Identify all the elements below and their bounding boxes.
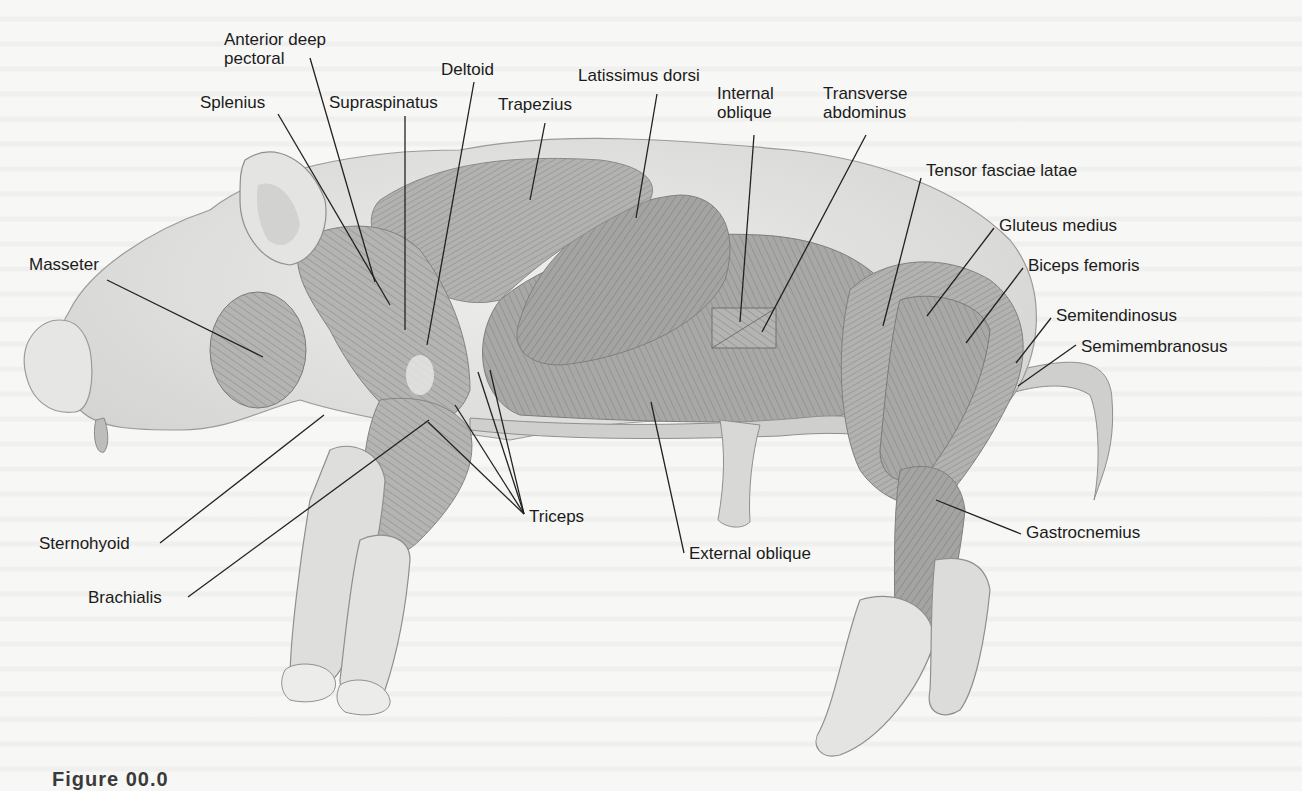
leader-line-semitendinosus xyxy=(1016,318,1051,363)
label-text: Gluteus medius xyxy=(999,216,1117,235)
label-text: pectoral xyxy=(224,49,326,68)
label-text: Gastrocnemius xyxy=(1026,523,1140,542)
label-deltoid: Deltoid xyxy=(441,60,494,79)
leader-line-deltoid xyxy=(427,82,474,345)
leader-line-triceps-4 xyxy=(490,370,524,514)
label-text: Deltoid xyxy=(441,60,494,79)
label-gluteus-medius: Gluteus medius xyxy=(999,216,1117,235)
leader-line-tensor-fasciae-latae xyxy=(883,178,921,326)
label-text: Triceps xyxy=(529,507,584,526)
label-brachialis: Brachialis xyxy=(88,588,162,607)
label-text: Internal xyxy=(717,84,774,103)
label-text: Latissimus dorsi xyxy=(578,66,700,85)
leader-line-masseter xyxy=(107,280,263,357)
label-splenius: Splenius xyxy=(200,93,265,112)
label-text: Anterior deep xyxy=(224,30,326,49)
leader-line-sternohyoid xyxy=(160,415,324,543)
label-trapezius: Trapezius xyxy=(498,95,572,114)
leader-line-gastrocnemius xyxy=(936,500,1021,534)
label-text: abdominus xyxy=(823,103,907,122)
label-text: Brachialis xyxy=(88,588,162,607)
label-sternohyoid: Sternohyoid xyxy=(39,534,130,553)
leader-line-brachialis xyxy=(188,420,429,597)
label-text: Splenius xyxy=(200,93,265,112)
leader-line-biceps-femoris xyxy=(966,268,1023,343)
label-biceps-femoris: Biceps femoris xyxy=(1028,256,1139,275)
label-text: Semitendinosus xyxy=(1056,306,1177,325)
leader-line-external-oblique xyxy=(651,402,684,553)
label-semimembranosus: Semimembranosus xyxy=(1081,337,1227,356)
label-text: Masseter xyxy=(29,255,99,274)
label-text: Sternohyoid xyxy=(39,534,130,553)
label-latissimus-dorsi: Latissimus dorsi xyxy=(578,66,700,85)
label-text: Tensor fasciae latae xyxy=(926,161,1077,180)
leader-line-latissimus-dorsi xyxy=(636,94,657,218)
leader-line-transverse-abdominus xyxy=(762,135,866,332)
label-text: Supraspinatus xyxy=(329,93,438,112)
leader-line-semimembranosus xyxy=(1018,345,1076,386)
label-text: Biceps femoris xyxy=(1028,256,1139,275)
label-masseter: Masseter xyxy=(29,255,99,274)
leader-line-triceps-2 xyxy=(455,405,524,514)
leader-line-anterior-deep-pectoral xyxy=(310,58,375,282)
label-semitendinosus: Semitendinosus xyxy=(1056,306,1177,325)
label-text: oblique xyxy=(717,103,774,122)
label-text: Trapezius xyxy=(498,95,572,114)
label-external-oblique: External oblique xyxy=(689,544,811,563)
label-tensor-fasciae-latae: Tensor fasciae latae xyxy=(926,161,1077,180)
label-supraspinatus: Supraspinatus xyxy=(329,93,438,112)
label-transverse-abdominus: Transverseabdominus xyxy=(823,84,907,122)
leader-line-trapezius xyxy=(530,123,545,200)
label-text: External oblique xyxy=(689,544,811,563)
figure-caption: Figure 00.0 xyxy=(52,768,169,791)
label-gastrocnemius: Gastrocnemius xyxy=(1026,523,1140,542)
label-text: Transverse xyxy=(823,84,907,103)
label-anterior-deep-pectoral: Anterior deeppectoral xyxy=(224,30,326,68)
leader-line-gluteus-medius xyxy=(927,228,994,316)
leader-line-internal-oblique xyxy=(740,135,754,322)
label-triceps: Triceps xyxy=(529,507,584,526)
label-internal-oblique: Internaloblique xyxy=(717,84,774,122)
label-text: Semimembranosus xyxy=(1081,337,1227,356)
